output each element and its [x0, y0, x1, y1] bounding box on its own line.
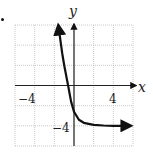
chart-figure: y x −4 4 −4: [0, 0, 153, 159]
x-tick-label-4: 4: [109, 93, 117, 105]
x-tick-label-neg4: −4: [18, 93, 36, 105]
y-tick-label-neg4: −4: [52, 122, 70, 134]
plot-area: [0, 0, 153, 159]
x-axis-label: x: [138, 80, 146, 94]
y-axis-label: y: [69, 4, 77, 18]
curve-line: [58, 25, 131, 126]
